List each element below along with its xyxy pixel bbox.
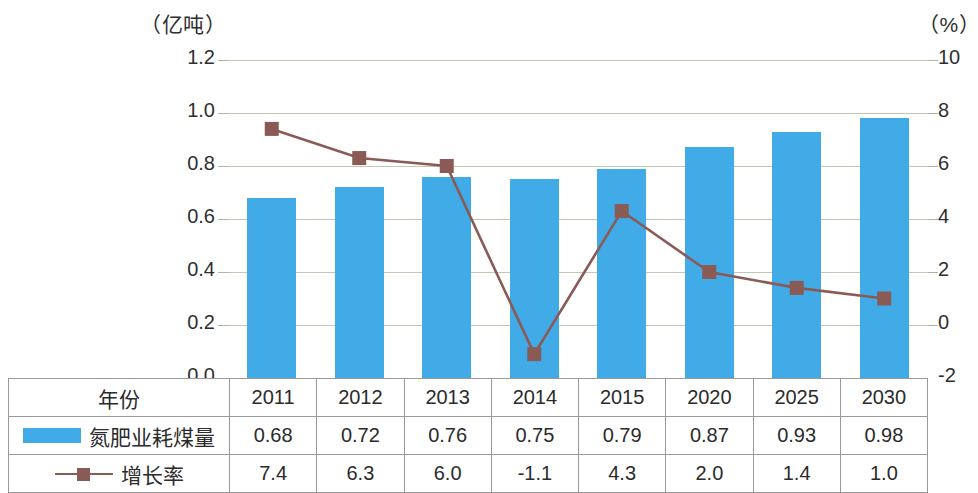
cell-year: 2030 — [840, 379, 927, 417]
left-tickmark — [218, 219, 228, 220]
line-marker — [265, 122, 279, 136]
cell-coal-value: 0.98 — [840, 417, 927, 455]
line-marker — [440, 159, 454, 173]
right-tickmark — [928, 272, 938, 273]
table-row-growth: 增长率 7.46.36.0-1.14.32.01.41.0 — [9, 455, 928, 493]
right-axis-tick-label: 0 — [938, 311, 949, 334]
right-axis-tick-label: 6 — [938, 152, 949, 175]
left-tickmark — [218, 272, 228, 273]
table-row-year: 年份 20112012201320142015202020252030 — [9, 379, 928, 417]
line-series — [228, 60, 928, 378]
right-tickmark — [928, 325, 938, 326]
left-axis-tick-label: 0.6 — [155, 205, 215, 228]
cell-coal-value: 0.72 — [317, 417, 404, 455]
row-label-growth: 增长率 — [121, 459, 184, 489]
right-axis-tick-label: 4 — [938, 205, 949, 228]
cell-growth-value: 4.3 — [579, 455, 666, 493]
line-marker — [352, 151, 366, 165]
line-marker — [702, 265, 716, 279]
row-header-growth: 增长率 — [9, 455, 230, 493]
data-table: 年份 20112012201320142015202020252030 氮肥业耗… — [8, 378, 928, 493]
cell-year: 2013 — [404, 379, 491, 417]
row-header-year: 年份 — [9, 379, 230, 417]
left-axis-tick-label: 1.0 — [155, 99, 215, 122]
cell-year: 2014 — [491, 379, 578, 417]
cell-year: 2015 — [579, 379, 666, 417]
cell-growth-value: 6.0 — [404, 455, 491, 493]
cell-growth-value: 1.0 — [840, 455, 927, 493]
row-header-coal: 氮肥业耗煤量 — [9, 417, 230, 455]
cell-growth-value: 1.4 — [753, 455, 840, 493]
right-axis-tick-label: 8 — [938, 99, 949, 122]
cell-year: 2020 — [666, 379, 753, 417]
cell-coal-value: 0.93 — [753, 417, 840, 455]
row-label-year: 年份 — [98, 383, 140, 413]
cell-growth-value: -1.1 — [491, 455, 578, 493]
right-axis-caption: （%） — [918, 8, 978, 38]
left-axis-caption: （亿吨） — [140, 8, 226, 38]
cell-year: 2011 — [230, 379, 317, 417]
cell-growth-value: 2.0 — [666, 455, 753, 493]
right-axis-tick-label: 2 — [938, 258, 949, 281]
cell-year: 2012 — [317, 379, 404, 417]
cell-coal-value: 0.79 — [579, 417, 666, 455]
bar-legend-swatch-icon — [23, 428, 81, 443]
left-axis-tick-label: 0.4 — [155, 258, 215, 281]
left-tickmark — [218, 60, 228, 61]
right-tickmark — [928, 113, 938, 114]
cell-year: 2025 — [753, 379, 840, 417]
line-marker — [790, 281, 804, 295]
line-legend-swatch-icon — [55, 467, 113, 481]
right-tickmark — [928, 60, 938, 61]
row-label-coal: 氮肥业耗煤量 — [89, 421, 215, 451]
right-tickmark — [928, 166, 938, 167]
table-row-coal: 氮肥业耗煤量 0.680.720.760.750.790.870.930.98 — [9, 417, 928, 455]
line-marker — [615, 204, 629, 218]
right-axis-tick-label: -2 — [938, 364, 956, 387]
line-marker — [877, 292, 891, 306]
left-tickmark — [218, 166, 228, 167]
left-tickmark — [218, 113, 228, 114]
left-tickmark — [218, 325, 228, 326]
right-axis-tick-label: 10 — [938, 46, 960, 69]
right-tickmark — [928, 219, 938, 220]
cell-coal-value: 0.87 — [666, 417, 753, 455]
cell-coal-value: 0.68 — [230, 417, 317, 455]
left-axis-tick-label: 0.2 — [155, 311, 215, 334]
cell-growth-value: 7.4 — [230, 455, 317, 493]
left-axis-tick-label: 1.2 — [155, 46, 215, 69]
cell-growth-value: 6.3 — [317, 455, 404, 493]
left-axis-tick-label: 0.8 — [155, 152, 215, 175]
line-marker — [527, 347, 541, 361]
cell-coal-value: 0.76 — [404, 417, 491, 455]
cell-coal-value: 0.75 — [491, 417, 578, 455]
